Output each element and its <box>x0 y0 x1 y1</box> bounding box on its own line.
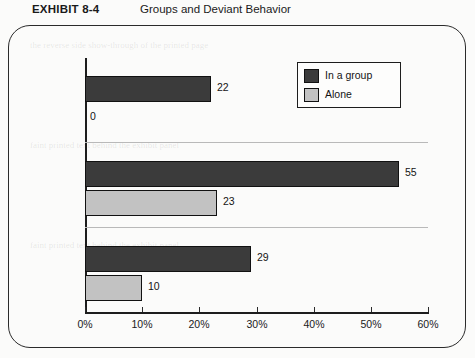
x-tick-label-60: 60% <box>417 318 438 330</box>
bar-cheating-alone <box>85 190 217 216</box>
exhibit-title: Groups and Deviant Behavior <box>140 3 291 15</box>
x-tick-label-30: 30% <box>246 318 267 330</box>
x-tick-label-0: 0% <box>77 318 92 330</box>
bar-value-stealing-alone: 10 <box>148 280 160 292</box>
bar-stealing-in-a-group <box>85 246 251 272</box>
bar-value-stealing-in-a-group: 29 <box>257 251 269 263</box>
x-tick-label-50: 50% <box>360 318 381 330</box>
bar-lying-in-a-group <box>85 76 211 102</box>
legend-swatch-alone-icon <box>304 88 319 102</box>
bar-stealing-alone <box>85 275 142 301</box>
legend-label-in-a-group: In a group <box>325 69 372 81</box>
x-tick-30 <box>257 307 258 312</box>
bar-value-cheating-in-a-group: 55 <box>405 166 417 178</box>
x-tick-label-10: 10% <box>131 318 152 330</box>
chart-legend: In a group Alone <box>297 62 401 108</box>
x-tick-label-20: 20% <box>188 318 209 330</box>
x-tick-50 <box>371 307 372 312</box>
exhibit-number: EXHIBIT 8-4 <box>32 3 99 15</box>
legend-swatch-in-a-group-icon <box>304 69 319 83</box>
x-tick-40 <box>314 307 315 312</box>
x-tick-0 <box>85 307 86 312</box>
exhibit-figure: the reverse side show-through of the pri… <box>0 0 475 358</box>
bar-cheating-in-a-group <box>85 161 399 187</box>
group-separator <box>85 142 428 143</box>
group-separator <box>85 227 428 228</box>
legend-label-alone: Alone <box>325 88 352 100</box>
x-tick-60 <box>428 307 429 312</box>
bar-value-lying-alone: 0 <box>90 110 96 122</box>
exhibit-header: EXHIBIT 8-4 Groups and Deviant Behavior <box>0 0 475 24</box>
bar-value-lying-in-a-group: 22 <box>217 81 229 93</box>
x-tick-20 <box>199 307 200 312</box>
x-tick-label-40: 40% <box>303 318 324 330</box>
x-tick-10 <box>142 307 143 312</box>
bar-value-cheating-alone: 23 <box>223 195 235 207</box>
